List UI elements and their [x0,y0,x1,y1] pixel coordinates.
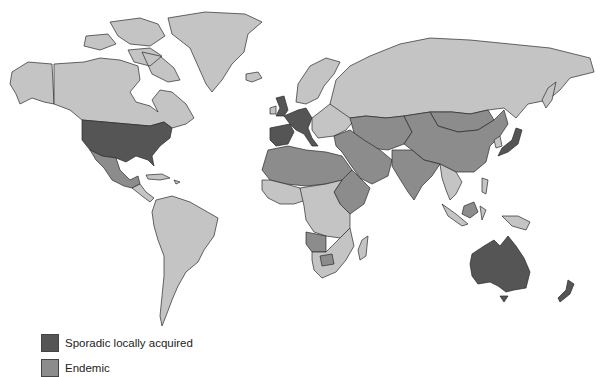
legend-label-endemic: Endemic [65,362,110,374]
madagascar [358,236,368,260]
new-zealand [558,280,574,302]
alaska [10,62,54,104]
central-america [132,184,154,202]
south-america [152,196,218,326]
legend-item-endemic: Endemic [41,357,193,377]
russia [330,38,594,118]
botswana [320,254,334,266]
iceland [246,72,262,82]
caribbean [146,174,180,184]
united-kingdom [276,96,288,116]
legend-item-sporadic: Sporadic locally acquired [41,332,193,354]
philippines [482,178,488,194]
ireland [270,106,276,114]
world-map [0,0,603,377]
north-africa [262,146,352,186]
iberia [270,124,294,146]
tasmania [500,296,508,302]
indonesia [462,202,478,218]
new-guinea [502,216,530,230]
australia [470,236,530,292]
legend-label-sporadic: Sporadic locally acquired [65,337,193,349]
map-legend: Sporadic locally acquired Endemic [41,332,193,377]
legend-swatch-endemic [41,359,59,377]
legend-swatch-sporadic [41,334,59,352]
